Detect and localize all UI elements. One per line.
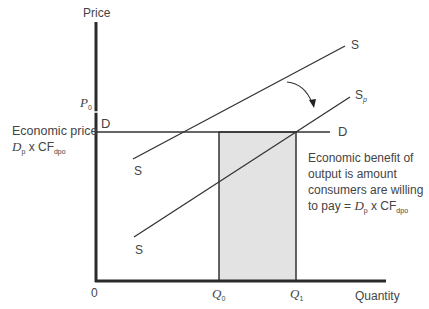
annotation-line-2: output is amount [308,166,429,182]
times-cf: x CF [25,140,54,154]
q1-label: Q1 [290,287,303,306]
dp-symbol: D [12,139,21,154]
annotation-times-cf: x CF [368,199,397,213]
cf-subscript: dpo [54,148,66,155]
demand-label-left: D [101,117,110,131]
p0-subscript: 0 [88,104,92,111]
sp-symbol: S [355,88,363,102]
p0-symbol: P [80,95,88,110]
annotation-dp-symbol: D [354,198,363,213]
q1-symbol: Q [290,286,299,301]
demand-label-right: D [338,125,347,139]
q1-subscript: 1 [299,295,303,302]
annotation-line-1: Economic benefit of [308,150,429,166]
economic-benefit-annotation: Economic benefit of output is amount con… [308,150,429,219]
sp-subscript: p [363,96,367,103]
annotation-prefix: to pay = [308,199,354,213]
supply-sp-bottom-label: S [135,243,143,257]
x-axis-label: Quantity [355,289,400,303]
supply-sp-top-label: Sp [355,88,367,107]
p0-label: P0 [80,96,92,115]
annotation-line-3: consumers are willing [308,182,429,198]
q0-label: Q0 [212,287,225,306]
annotation-cf-sub: dpo [396,207,408,214]
supply-s-top-label: S [351,38,359,52]
economic-benefit-area [219,132,296,281]
q0-symbol: Q [212,286,221,301]
annotation-line-4: to pay = Dp x CFdpo [308,198,429,219]
supply-s-bottom-label: S [134,164,142,178]
y-axis-label: Price [83,6,110,20]
economic-price-label: Economic price [12,124,97,138]
q0-subscript: 0 [221,295,225,302]
arrowhead-icon [309,99,316,108]
shift-arrow-icon [287,82,312,103]
origin-label: 0 [91,286,98,300]
economic-price-formula: Dp x CFdpo [12,140,66,159]
